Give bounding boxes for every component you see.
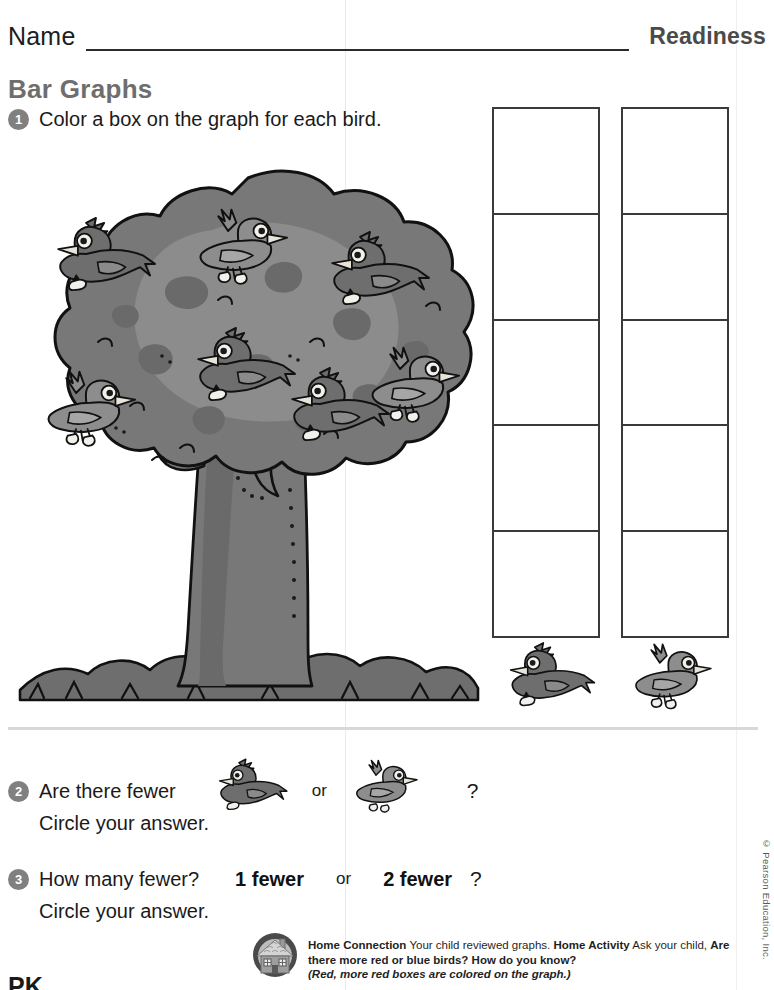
graph-legend [492,640,742,720]
legend-red-cardinal-bird-icon [502,640,610,724]
home-activity-answer-note: (Red, more red boxes are colored on the … [308,968,571,980]
name-label: Name [8,22,76,51]
graph-cell[interactable] [623,426,727,532]
name-row: Name Readiness [8,22,766,56]
home-connection-label: Home Connection [308,939,406,951]
legend-blue-flying-bird-icon [627,640,735,724]
graph-cell[interactable] [623,532,727,636]
graph-cell[interactable] [623,109,727,215]
question-1-row: 1 Color a box on the graph for each bird… [8,108,381,131]
question-3-option-b[interactable]: 2 fewer [383,868,452,891]
question-2-mark: ? [467,779,479,803]
graph-cell[interactable] [494,109,598,215]
question-3-row: 3 How many fewer? 1 fewer or 2 fewer ? [8,858,608,900]
graph-column-red-bird [492,107,600,638]
option-blue-flying-bird-icon[interactable] [347,758,439,824]
option-red-cardinal-bird-icon[interactable] [210,758,302,824]
question-3-prompt: How many fewer? [39,868,199,891]
question-3-mark: ? [470,867,482,891]
section-divider [8,727,758,730]
bar-graph-grid [492,107,732,638]
home-activity-body: Ask your child, [630,939,711,951]
question-2-badge: 2 [8,781,29,802]
house-icon [252,932,298,982]
question-2-row: 2 Are there fewer or [8,770,608,812]
copyright-notice: © Pearson Education, Inc. [761,838,772,960]
section-label: Readiness [649,23,766,50]
tree-illustration [12,160,482,720]
question-2-connector: or [312,781,327,801]
graph-cell[interactable] [494,321,598,427]
question-3-connector: or [336,869,351,889]
name-write-line[interactable] [86,49,629,51]
question-3-block: 3 How many fewer? 1 fewer or 2 fewer ? C… [8,858,608,923]
home-connection: Home Connection Your child reviewed grap… [252,932,730,982]
graph-cell[interactable] [494,426,598,532]
graph-cell[interactable] [623,321,727,427]
question-1-prompt: Color a box on the graph for each bird. [39,108,381,131]
question-2-block: 2 Are there fewer or [8,770,608,835]
graph-cell[interactable] [494,532,598,636]
question-3-subprompt: Circle your answer. [39,900,608,923]
home-activity-label: Home Activity [553,939,629,951]
home-connection-text: Home Connection Your child reviewed grap… [308,932,730,982]
question-3-badge: 3 [8,869,29,890]
question-1-badge: 1 [8,109,29,130]
worksheet-page: Name Readiness Bar Graphs 1 Color a box … [0,0,774,990]
graph-cell[interactable] [494,215,598,321]
home-connection-body: Your child reviewed graphs. [406,939,553,951]
question-2-prompt: Are there fewer [39,780,176,803]
page-title: Bar Graphs [8,74,153,105]
page-fold-line-right [736,0,737,990]
graph-column-blue-bird [621,107,729,638]
bottom-page-code: PK [8,972,43,990]
question-3-option-a[interactable]: 1 fewer [235,868,304,891]
graph-cell[interactable] [623,215,727,321]
question-2-subprompt: Circle your answer. [39,812,608,835]
